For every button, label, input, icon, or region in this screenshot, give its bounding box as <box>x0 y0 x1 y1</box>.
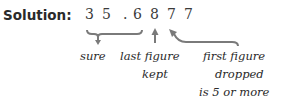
note-sure: sure <box>80 49 106 63</box>
up-arrow-icon <box>152 28 159 35</box>
note-five-or-more: is 5 or more <box>199 85 269 99</box>
down-arrow-icon <box>95 40 101 45</box>
curved-arrow-path <box>174 34 238 46</box>
note-last-figure: last figure <box>120 49 179 63</box>
note-dropped: dropped <box>215 67 264 81</box>
note-kept: kept <box>142 67 168 81</box>
brace-icon <box>87 30 142 37</box>
note-first-figure: first figure <box>203 49 265 63</box>
